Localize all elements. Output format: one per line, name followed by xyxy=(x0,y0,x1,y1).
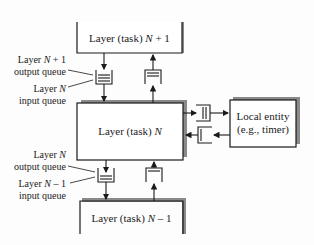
label-upper-output-queue: Layer N + 1 output queue xyxy=(0,54,66,78)
label-lower-output-queue: Layer N output queue xyxy=(0,149,66,173)
label-lower-input-queue: Layer N – 1 input queue xyxy=(0,178,66,202)
label-layer-n-plus-1: Layer (task) N + 1 xyxy=(77,32,182,44)
label-layer-n-minus-1: Layer (task) N – 1 xyxy=(80,212,183,224)
queue-upper-down xyxy=(96,53,112,101)
label-upper-input-queue: Layer N input queue xyxy=(0,83,66,107)
label-local-entity: Local entity (e.g., timer) xyxy=(230,110,296,136)
label-layer-n: Layer (task) N xyxy=(77,125,183,137)
layered-task-queue-diagram: Layer (task) N + 1 Layer (task) N Layer … xyxy=(0,0,314,245)
queue-lower-up xyxy=(146,162,162,201)
queue-from-local-entity xyxy=(186,127,230,143)
queue-upper-up xyxy=(145,55,161,103)
queue-to-local-entity xyxy=(183,105,228,121)
queue-lower-down xyxy=(98,160,114,199)
